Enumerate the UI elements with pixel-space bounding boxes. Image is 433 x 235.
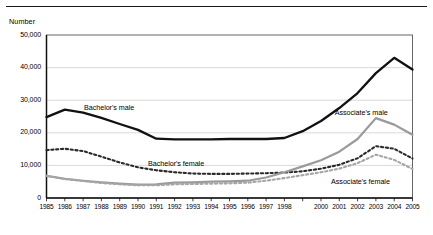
series-lines: [47, 58, 413, 185]
y-tick-label: 10,000: [1, 161, 41, 168]
y-tick-label: 40,000: [1, 63, 41, 70]
y-tick-label: 0: [1, 194, 41, 201]
series-label-1: Bachelor's female: [148, 159, 204, 168]
y-tick-label: 30,000: [1, 96, 41, 103]
series-line-1: [47, 146, 413, 174]
line-chart-plot: [0, 0, 433, 235]
y-tick-label: 50,000: [1, 31, 41, 38]
series-label-2: Associate's male: [335, 108, 388, 117]
series-label-0: Bachelor's male: [84, 103, 134, 112]
series-label-3: Associate's female: [331, 177, 390, 186]
y-tick-label: 20,000: [1, 128, 41, 135]
x-tick-label: 1998: [269, 203, 299, 210]
x-tick-label: 2005: [398, 203, 428, 210]
series-line-0: [47, 58, 413, 140]
chart-figure: Number 010,00020,00030,00040,00050,000 1…: [0, 0, 433, 235]
x-axis-ticks: [47, 198, 413, 201]
